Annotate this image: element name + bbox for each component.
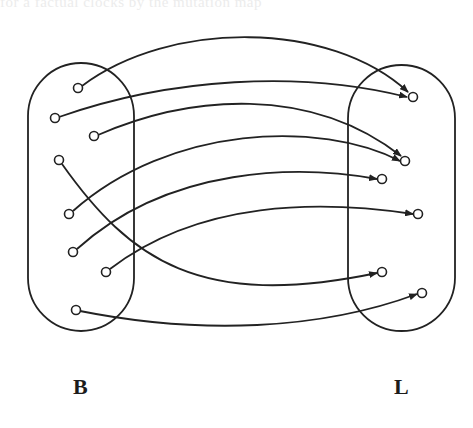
node-l1 xyxy=(409,93,418,102)
node-b7 xyxy=(102,268,111,277)
node-l3 xyxy=(378,175,387,184)
arrow-b1-to-l1 xyxy=(82,37,408,92)
set-boundary-b xyxy=(28,63,134,331)
node-l2 xyxy=(401,157,410,166)
node-b1 xyxy=(74,84,83,93)
set-boundary-l xyxy=(348,65,455,331)
arrow-b7-to-l4 xyxy=(110,207,413,269)
set-label-l: L xyxy=(394,376,409,398)
arrow-b5-to-l2 xyxy=(73,136,400,211)
arrow-b6-to-l3 xyxy=(77,172,377,249)
arrow-b3-to-l2 xyxy=(98,104,401,156)
node-l4 xyxy=(414,210,423,219)
node-b3 xyxy=(90,132,99,141)
node-b6 xyxy=(69,248,78,257)
node-b4 xyxy=(55,156,64,165)
node-l5 xyxy=(378,268,387,277)
set-label-b: B xyxy=(73,376,88,398)
node-b2 xyxy=(51,114,60,123)
node-b5 xyxy=(65,210,74,219)
arrow-b2-to-l1 xyxy=(59,81,407,117)
nodes-layer xyxy=(51,84,427,315)
node-b8 xyxy=(72,306,81,315)
mapping-diagram xyxy=(0,0,473,428)
node-l6 xyxy=(418,289,427,298)
